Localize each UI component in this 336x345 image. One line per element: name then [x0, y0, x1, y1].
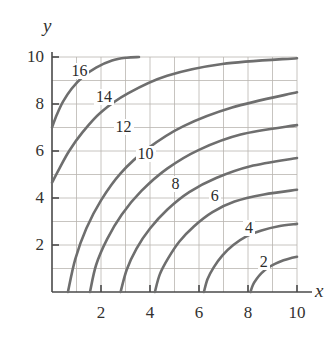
y-tick-label-6: 6 — [4, 142, 44, 159]
contour-label-14: 14 — [94, 89, 114, 105]
x-tick-label-2: 2 — [81, 304, 121, 321]
x-tick-label-10: 10 — [277, 304, 317, 321]
contour-label-16: 16 — [69, 63, 89, 79]
x-tick-label-8: 8 — [228, 304, 268, 321]
plot-canvas — [0, 0, 336, 345]
contour-plot-figure: y x 246810 246810 246810121416 — [0, 0, 336, 345]
y-axis-label: y — [43, 16, 51, 35]
x-tick-label-6: 6 — [179, 304, 219, 321]
x-axis-label: x — [315, 281, 323, 300]
contour-line-6 — [155, 190, 297, 292]
contour-label-4: 4 — [243, 220, 255, 236]
y-tick-label-2: 2 — [4, 236, 44, 253]
contour-label-8: 8 — [170, 176, 182, 192]
y-tick-label-8: 8 — [4, 95, 44, 112]
contour-label-10: 10 — [136, 146, 156, 162]
axis-lines — [52, 52, 312, 292]
contour-label-2: 2 — [258, 254, 270, 270]
x-tick-label-4: 4 — [130, 304, 170, 321]
y-tick-label-10: 10 — [4, 48, 44, 65]
contour-label-6: 6 — [209, 188, 221, 204]
y-tick-label-4: 4 — [4, 189, 44, 206]
contour-line-8 — [121, 158, 297, 292]
contour-label-12: 12 — [114, 119, 134, 135]
